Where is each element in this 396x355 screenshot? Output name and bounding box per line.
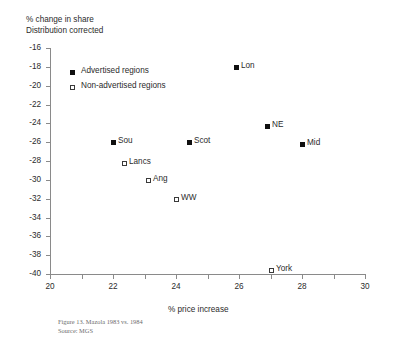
data-point-label-ne: NE bbox=[272, 120, 283, 129]
y-tick-mark bbox=[46, 161, 50, 162]
y-tick-mark bbox=[46, 105, 50, 106]
x-tick-mark bbox=[176, 275, 177, 279]
data-point-lancs[interactable] bbox=[122, 161, 127, 166]
data-point-label-lancs: Lancs bbox=[129, 157, 151, 166]
y-tick-mark bbox=[46, 67, 50, 68]
x-tick-mark bbox=[113, 275, 114, 279]
x-tick-mark bbox=[271, 275, 272, 279]
y-tick-mark bbox=[46, 180, 50, 181]
y-tick-label: -24 bbox=[19, 118, 41, 127]
y-tick-mark bbox=[46, 199, 50, 200]
x-tick-mark bbox=[208, 275, 209, 279]
y-tick-label: -30 bbox=[19, 175, 41, 184]
y-tick-label: -16 bbox=[19, 43, 41, 52]
y-tick-label: -36 bbox=[19, 231, 41, 240]
x-tick-label: 20 bbox=[39, 282, 61, 291]
legend-item-label: Non-advertised regions bbox=[81, 81, 166, 90]
data-point-mid[interactable] bbox=[300, 142, 305, 147]
data-point-york[interactable] bbox=[269, 268, 274, 273]
x-tick-label: 22 bbox=[102, 282, 124, 291]
y-tick-mark bbox=[46, 142, 50, 143]
x-tick-label: 24 bbox=[165, 282, 187, 291]
y-tick-label: -32 bbox=[19, 194, 41, 203]
x-tick-mark bbox=[82, 275, 83, 279]
hollow-square-icon bbox=[70, 85, 75, 90]
y-tick-mark bbox=[46, 86, 50, 87]
y-tick-label: -28 bbox=[19, 156, 41, 165]
y-tick-label: -38 bbox=[19, 250, 41, 259]
data-point-sou[interactable] bbox=[111, 140, 116, 145]
y-tick-mark bbox=[46, 255, 50, 256]
x-axis-title: % price increase bbox=[168, 304, 229, 315]
data-point-label-scot: Scot bbox=[194, 136, 210, 145]
x-tick-mark bbox=[239, 275, 240, 279]
data-point-scot[interactable] bbox=[187, 140, 192, 145]
y-axis-line bbox=[50, 48, 51, 275]
data-point-label-mid: Mid bbox=[307, 138, 320, 147]
y-tick-label: -26 bbox=[19, 137, 41, 146]
y-tick-label: -22 bbox=[19, 100, 41, 109]
figure-caption: Figure 13. Mazola 1983 vs. 1984 Source: … bbox=[58, 318, 143, 335]
data-point-label-sou: Sou bbox=[118, 136, 133, 145]
y-axis-title-line-2: Distribution corrected bbox=[26, 25, 103, 36]
y-tick-mark bbox=[46, 48, 50, 49]
legend-item-label: Advertised regions bbox=[81, 66, 149, 75]
caption-figure-line: Figure 13. Mazola 1983 vs. 1984 bbox=[58, 318, 143, 327]
data-point-label-york: York bbox=[276, 264, 292, 273]
y-tick-mark bbox=[46, 123, 50, 124]
x-tick-mark bbox=[50, 275, 51, 279]
x-tick-mark bbox=[334, 275, 335, 279]
y-tick-label: -20 bbox=[19, 81, 41, 90]
data-point-label-lon: Lon bbox=[241, 61, 255, 70]
data-point-lon[interactable] bbox=[234, 65, 239, 70]
y-axis-title: % change in share Distribution corrected bbox=[26, 14, 103, 36]
data-point-ne[interactable] bbox=[265, 124, 270, 129]
y-tick-label: -34 bbox=[19, 213, 41, 222]
x-tick-mark bbox=[365, 275, 366, 279]
scatter-chart-figure: % change in share Distribution corrected… bbox=[0, 0, 396, 355]
x-tick-label: 30 bbox=[354, 282, 376, 291]
data-point-ang[interactable] bbox=[146, 178, 151, 183]
data-point-label-ww: WW bbox=[181, 193, 196, 202]
caption-source-line: Source: MGS bbox=[58, 327, 143, 336]
y-tick-label: -40 bbox=[19, 269, 41, 278]
y-tick-mark bbox=[46, 218, 50, 219]
y-tick-label: -18 bbox=[19, 62, 41, 71]
data-point-ww[interactable] bbox=[174, 197, 179, 202]
x-tick-label: 28 bbox=[291, 282, 313, 291]
x-tick-mark bbox=[302, 275, 303, 279]
filled-square-icon bbox=[70, 70, 75, 75]
y-tick-mark bbox=[46, 236, 50, 237]
x-tick-label: 26 bbox=[228, 282, 250, 291]
x-tick-mark bbox=[145, 275, 146, 279]
y-axis-title-line-1: % change in share bbox=[26, 14, 103, 25]
data-point-label-ang: Ang bbox=[153, 174, 168, 183]
